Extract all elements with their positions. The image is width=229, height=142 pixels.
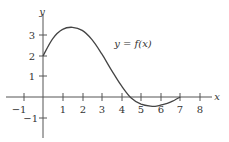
y-tick-label: −1: [23, 113, 38, 124]
x-tick-label: 4: [119, 104, 125, 115]
function-label: y = f(x): [113, 38, 152, 49]
x-tick-label: 2: [80, 104, 86, 115]
x-tick-label: 3: [99, 104, 105, 115]
x-axis-label: x: [214, 91, 220, 102]
x-tick-label: 1: [60, 104, 66, 115]
x-tick-label: 7: [177, 104, 183, 115]
y-tick-label: 2: [29, 51, 35, 62]
x-tick-label: 5: [138, 104, 144, 115]
x-tick-label: 8: [197, 104, 203, 115]
y-axis-label: y: [38, 6, 45, 17]
y-tick-label: 1: [29, 71, 35, 82]
function-curve: [43, 27, 180, 106]
y-tick-label: 3: [29, 30, 35, 41]
function-graph: −1 1 2 3 4 5 6 7 8 3 2 1 −1 y x y = f(x): [0, 0, 229, 142]
